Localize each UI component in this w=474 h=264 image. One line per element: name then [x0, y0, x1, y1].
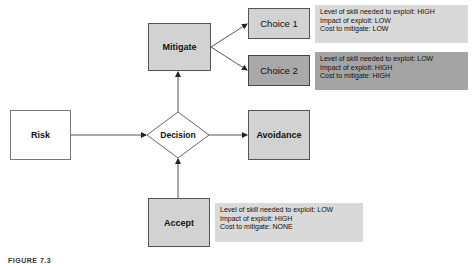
- mitigate-node: Mitigate: [148, 23, 211, 71]
- mitigate-label: Mitigate: [162, 42, 196, 52]
- cost-text: Cost to mitigate: HIGH: [320, 72, 463, 81]
- avoidance-label: Avoidance: [256, 130, 301, 140]
- choice-1-info-box: Level of skill needed to exploit: HIGH I…: [315, 5, 468, 43]
- skill-level-text: Level of skill needed to exploit: LOW: [220, 206, 358, 215]
- choice-1-node: Choice 1: [248, 8, 310, 39]
- figure-caption: FIGURE 7.3: [8, 257, 51, 264]
- accept-node: Accept: [148, 198, 210, 247]
- risk-label: Risk: [31, 130, 50, 140]
- choice-2-info-box: Level of skill needed to exploit: LOW Im…: [315, 52, 468, 90]
- skill-level-text: Level of skill needed to exploit: LOW: [320, 55, 463, 64]
- choice-1-label: Choice 1: [260, 18, 298, 29]
- impact-text: Impact of exploit: LOW: [320, 17, 463, 26]
- accept-info-box: Level of skill needed to exploit: LOW Im…: [215, 203, 363, 242]
- decision-label: Decision: [147, 130, 209, 140]
- cost-text: Cost to mitigate: NONE: [220, 223, 358, 232]
- choice-2-node: Choice 2: [248, 55, 310, 86]
- impact-text: Impact of exploit: HIGH: [220, 215, 358, 224]
- choice-2-label: Choice 2: [260, 65, 298, 76]
- accept-label: Accept: [164, 218, 194, 228]
- skill-level-text: Level of skill needed to exploit: HIGH: [320, 8, 463, 17]
- impact-text: Impact of exploit: HIGH: [320, 64, 463, 73]
- avoidance-node: Avoidance: [248, 110, 310, 160]
- risk-node: Risk: [10, 110, 71, 160]
- cost-text: Cost to mitigate: LOW: [320, 25, 463, 34]
